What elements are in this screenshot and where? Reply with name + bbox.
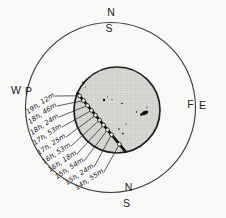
- mercury-position-marker: [82, 99, 86, 103]
- sunspot: [140, 113, 143, 116]
- time-labels: 19h, 12m 18h, 46m 18h, 24m 17h, 53m 17h,…: [25, 91, 106, 192]
- compass-north-top-label: N: [107, 6, 115, 18]
- compass-north-bottom-label: N: [125, 181, 133, 193]
- leader-line: [57, 101, 84, 106]
- mercury-transit-diagram: 19h, 12m 18h, 46m 18h, 24m 17h, 53m 17h,…: [0, 0, 226, 218]
- mercury-position-marker: [106, 128, 110, 132]
- compass-p-label: P: [25, 85, 32, 97]
- sunspot: [125, 123, 126, 124]
- leader-line: [104, 144, 119, 172]
- sunspot: [121, 103, 123, 105]
- compass-south-top-label: S: [105, 22, 112, 34]
- mercury-position-marker: [117, 142, 121, 146]
- compass-f-label: F: [187, 98, 193, 110]
- sunspot: [107, 96, 108, 97]
- sunspot: [122, 133, 124, 135]
- sunspot: [136, 111, 138, 113]
- mercury-position-marker: [102, 123, 106, 127]
- mercury-position-marker: [78, 94, 82, 98]
- sunspot: [112, 99, 113, 100]
- leader-line: [71, 120, 100, 146]
- compass-east-label: E: [199, 99, 206, 111]
- leader-line: [84, 130, 108, 161]
- compass-south-bottom-label: S: [123, 197, 130, 209]
- sunspot: [103, 99, 105, 101]
- mercury-position-marker: [94, 113, 98, 117]
- compass-west-label: W: [11, 84, 21, 96]
- mercury-position-marker: [90, 109, 94, 113]
- sunspot: [146, 107, 147, 108]
- sunspots: [82, 81, 149, 134]
- mercury-position-marker: [86, 104, 90, 108]
- sunspot: [85, 86, 86, 87]
- diagram-canvas: 19h, 12m 18h, 46m 18h, 24m 17h, 53m 17h,…: [0, 0, 226, 218]
- mercury-position-marker: [110, 133, 114, 137]
- leader-line: [94, 135, 112, 167]
- mercury-position-marker: [98, 118, 102, 122]
- sunspot: [118, 128, 120, 130]
